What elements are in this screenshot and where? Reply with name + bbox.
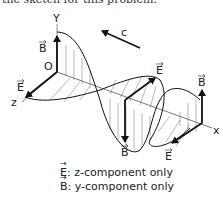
b-wave-curve bbox=[57, 32, 200, 152]
e-label-mid: E bbox=[156, 64, 163, 77]
c-label: c bbox=[121, 26, 127, 39]
legend: E: z-component only B: y-component only bbox=[60, 166, 174, 194]
legend-item-b: B: y-component only bbox=[60, 180, 174, 194]
z-axis-label: z bbox=[11, 96, 17, 109]
e-vector-origin bbox=[26, 72, 57, 97]
legend-text-b: : y-component only bbox=[68, 180, 174, 193]
legend-symbol-b: B bbox=[60, 180, 68, 194]
b-label-end: B bbox=[198, 76, 206, 89]
diagram-root: the sketch for this problem. bbox=[0, 0, 223, 204]
legend-item-e: E: z-component only bbox=[60, 166, 174, 180]
origin-label: O bbox=[44, 60, 53, 73]
y-axis-label: Y bbox=[52, 12, 60, 25]
e-field-hatching bbox=[50, 76, 190, 146]
e-vector-mid bbox=[125, 78, 155, 100]
b-field-hatching bbox=[66, 45, 196, 150]
b-label-origin: B bbox=[39, 42, 47, 55]
legend-text-e: : z-component only bbox=[67, 166, 173, 179]
e-label-end: E bbox=[165, 150, 172, 163]
e-label-origin: E bbox=[17, 81, 24, 94]
b-label-mid: B bbox=[121, 146, 129, 159]
x-axis-label: x bbox=[213, 124, 220, 137]
